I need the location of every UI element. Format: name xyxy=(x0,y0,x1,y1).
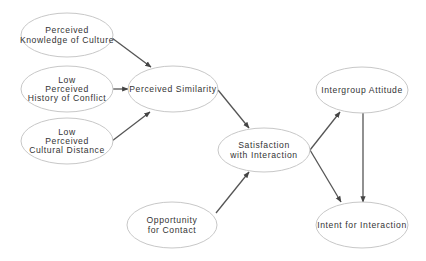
edges-layer xyxy=(112,38,363,213)
node-label: History of Conflict xyxy=(28,93,107,103)
node-intent: Intent for Interaction xyxy=(316,202,408,248)
arrow-distance-to-similarity xyxy=(112,112,150,141)
node-label: Perceived Similarity xyxy=(129,84,217,94)
arrow-knowledge-to-similarity xyxy=(112,38,151,67)
node-label: for Contact xyxy=(148,225,197,235)
arrow-satisfaction-to-attitude xyxy=(310,112,340,150)
arrow-similarity-to-satisfaction xyxy=(218,90,249,128)
node-knowledge: PerceivedKnowledge of Culture xyxy=(20,13,114,57)
nodes-layer: PerceivedKnowledge of CultureLowPerceive… xyxy=(20,13,408,248)
arrow-satisfaction-to-intent xyxy=(310,150,341,202)
node-similarity: Perceived Similarity xyxy=(128,66,218,112)
node-label: Intent for Interaction xyxy=(317,220,407,230)
node-opportunity: Opportunityfor Contact xyxy=(127,202,217,248)
arrow-opportunity-to-satisfaction xyxy=(216,172,249,213)
node-label: Knowledge of Culture xyxy=(20,35,114,45)
path-model-diagram: PerceivedKnowledge of CultureLowPerceive… xyxy=(0,0,426,261)
node-attitude: Intergroup Attitude xyxy=(316,67,408,113)
node-distance: LowPerceivedCultural Distance xyxy=(21,118,113,164)
node-label: Intergroup Attitude xyxy=(321,85,403,95)
node-label: Cultural Distance xyxy=(29,145,105,155)
node-satisfaction: Satisfactionwith Interaction xyxy=(218,128,310,172)
node-conflict: LowPerceivedHistory of Conflict xyxy=(21,66,113,112)
node-label: with Interaction xyxy=(229,150,297,160)
